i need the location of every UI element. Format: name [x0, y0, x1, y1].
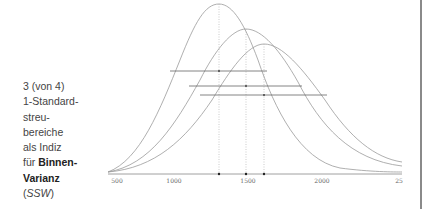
mean-dot: [245, 173, 247, 175]
mean-dot: [263, 173, 265, 175]
curve-group-1: [108, 4, 402, 172]
tick-label: 1000: [166, 177, 181, 184]
distribution-diagram: 500 1000 1500 2000 25: [0, 0, 424, 209]
curve-group-3: [108, 44, 402, 172]
tick-label: 2000: [314, 177, 329, 184]
mean-dot: [218, 173, 220, 175]
page-divider: [420, 0, 422, 209]
tick-label: 1500: [240, 177, 255, 184]
curve-group-2: [108, 29, 402, 172]
tick-label: 25: [395, 177, 403, 184]
tick-label: 500: [111, 177, 123, 184]
